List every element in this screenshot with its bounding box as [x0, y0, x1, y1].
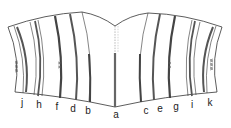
label-c: c	[144, 106, 149, 116]
label-d: d	[70, 104, 76, 114]
label-h: h	[36, 100, 42, 110]
bone-j	[17, 27, 27, 92]
label-e: e	[157, 104, 163, 114]
bone-e	[153, 14, 160, 100]
label-a: a	[113, 110, 119, 120]
label-k: k	[208, 98, 213, 108]
seam-line	[14, 26, 24, 93]
label-g: g	[173, 102, 179, 112]
bone-f	[55, 16, 61, 98]
bone-g	[169, 16, 175, 98]
bone-d	[70, 14, 77, 100]
seam-line	[194, 22, 200, 95]
seam-line	[30, 22, 36, 95]
bone-b	[89, 54, 90, 102]
label-f: f	[56, 102, 59, 112]
label-b: b	[85, 106, 91, 116]
hook-marks-left	[15, 61, 18, 72]
hook-marks-right	[210, 59, 213, 70]
label-i: i	[191, 100, 193, 110]
label-j: j	[21, 98, 23, 108]
bone-c	[140, 54, 141, 102]
